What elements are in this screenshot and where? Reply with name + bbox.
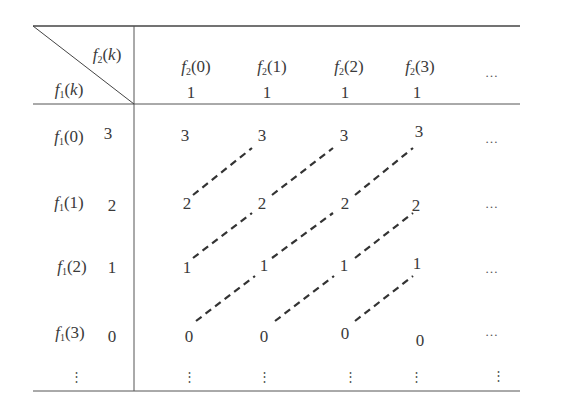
row-ellipsis: … <box>485 197 499 210</box>
column-header: f2(3) <box>405 58 435 77</box>
column-header: f2(0) <box>181 58 211 77</box>
row-value: 0 <box>108 328 117 345</box>
vertical-ellipsis: ⋮ <box>344 374 357 379</box>
vertical-ellipsis: ⋮ <box>492 373 505 378</box>
dashed-link <box>272 148 333 195</box>
cell: 0 <box>185 328 194 345</box>
vertical-ellipsis: ⋮ <box>183 374 196 379</box>
cell: 2 <box>341 195 350 212</box>
row-header: f1(0) <box>54 128 84 147</box>
row-ellipsis: … <box>485 132 499 145</box>
row-value: 3 <box>104 125 113 142</box>
vertical-ellipsis: ⋮ <box>70 374 83 379</box>
dashed-link <box>193 213 252 258</box>
vertical-ellipsis: ⋮ <box>258 374 271 379</box>
corner-diagonal <box>33 26 134 104</box>
cell: 0 <box>416 332 425 349</box>
column-header: f2(1) <box>257 58 287 77</box>
row-value: 2 <box>108 197 117 214</box>
column-header: f2(2) <box>334 58 364 77</box>
row-header: f1(2) <box>57 258 87 277</box>
dashed-link <box>355 148 413 195</box>
dashed-link <box>355 276 413 321</box>
cell: 3 <box>340 127 349 144</box>
dashed-link <box>196 276 255 321</box>
cell: 0 <box>260 328 269 345</box>
vertical-ellipsis: ⋮ <box>410 374 423 379</box>
column-value: 1 <box>187 84 196 101</box>
convolution-table-figure: f2(k) f1(k) f2(0) 1 f2(1) 1 f2(2) 1 f2(3… <box>0 0 573 419</box>
column-ellipsis: … <box>485 66 499 79</box>
cell: 1 <box>183 259 192 276</box>
cell: 0 <box>341 325 350 342</box>
dashed-link <box>193 148 252 195</box>
dashed-link <box>275 276 334 321</box>
cell: 3 <box>181 127 190 144</box>
diagonal-dashed-links <box>193 148 413 321</box>
cell: 2 <box>183 195 192 212</box>
cell: 1 <box>260 257 269 274</box>
column-value: 1 <box>341 84 350 101</box>
row-axis-label: f1(k) <box>55 81 84 100</box>
row-ellipsis: … <box>485 262 499 275</box>
dashed-link <box>355 213 413 258</box>
row-ellipsis: … <box>485 325 499 338</box>
cell: 1 <box>340 257 349 274</box>
row-header: f1(1) <box>54 194 84 213</box>
row-value: 1 <box>108 259 117 276</box>
cell: 3 <box>258 127 267 144</box>
row-header: f1(3) <box>55 324 85 343</box>
dashed-link <box>272 213 333 258</box>
cell: 3 <box>415 123 424 140</box>
column-value: 1 <box>413 84 422 101</box>
cell: 1 <box>413 255 422 272</box>
column-value: 1 <box>263 84 272 101</box>
cell: 2 <box>412 197 421 214</box>
col-axis-label: f2(k) <box>93 46 122 65</box>
cell: 2 <box>258 195 267 212</box>
